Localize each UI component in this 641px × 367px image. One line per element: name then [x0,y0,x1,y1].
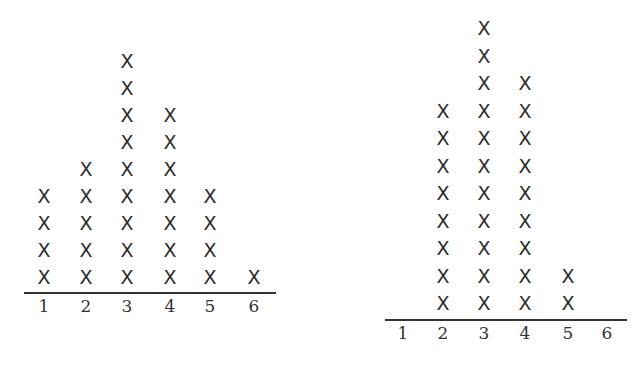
x-marker: X [476,129,492,147]
x-marker: X [36,214,52,232]
x-marker: X [476,294,492,312]
x-marker: X [119,241,135,259]
x-marker: X [246,268,262,286]
x-marker: X [119,160,135,178]
x-marker: X [119,133,135,151]
x-marker: X [476,184,492,202]
x-axis-line [385,319,627,321]
x-marker: X [435,184,451,202]
x-tick-label: 5 [200,297,220,315]
x-marker: X [476,74,492,92]
x-tick-label: 2 [76,297,96,315]
x-marker: X [476,19,492,37]
x-marker: X [78,268,94,286]
x-axis-line [24,292,276,294]
x-marker: X [162,133,178,151]
x-marker: X [435,212,451,230]
x-marker: X [476,102,492,120]
x-tick-label: 4 [515,324,535,342]
x-marker: X [162,268,178,286]
x-marker: X [78,214,94,232]
x-marker: X [202,187,218,205]
x-marker: X [202,268,218,286]
x-marker: X [476,239,492,257]
x-tick-label: 6 [597,324,617,342]
x-marker: X [119,187,135,205]
x-marker: X [517,294,533,312]
x-marker: X [435,102,451,120]
x-tick-label: 5 [558,324,578,342]
x-marker: X [36,241,52,259]
x-marker: X [162,106,178,124]
x-tick-label: 6 [244,297,264,315]
x-tick-label: 2 [433,324,453,342]
x-marker: X [517,129,533,147]
x-marker: X [517,74,533,92]
x-marker: X [476,47,492,65]
x-marker: X [119,79,135,97]
x-marker: X [162,187,178,205]
x-tick-label: 3 [117,297,137,315]
x-marker: X [435,157,451,175]
x-tick-label: 1 [34,297,54,315]
x-marker: X [119,52,135,70]
x-marker: X [476,157,492,175]
x-marker: X [119,268,135,286]
x-marker: X [202,214,218,232]
x-tick-label: 1 [393,324,413,342]
x-marker: X [517,212,533,230]
x-marker: X [476,267,492,285]
x-marker: X [162,214,178,232]
x-marker: X [517,102,533,120]
x-marker: X [517,157,533,175]
x-marker: X [476,212,492,230]
x-marker: X [119,214,135,232]
dot-plots-figure: 1XXXX2XXXXX3XXXXXXXXX4XXXXXXX5XXXX6X 12X… [0,0,641,367]
x-marker: X [517,239,533,257]
x-tick-label: 3 [474,324,494,342]
x-marker: X [119,106,135,124]
x-marker: X [560,267,576,285]
x-marker: X [202,241,218,259]
x-marker: X [78,241,94,259]
x-marker: X [435,267,451,285]
x-marker: X [36,268,52,286]
x-marker: X [36,187,52,205]
x-marker: X [162,241,178,259]
x-marker: X [560,294,576,312]
x-marker: X [78,160,94,178]
x-marker: X [78,187,94,205]
x-marker: X [162,160,178,178]
x-marker: X [435,239,451,257]
x-tick-label: 4 [160,297,180,315]
x-marker: X [435,129,451,147]
x-marker: X [517,267,533,285]
x-marker: X [517,184,533,202]
x-marker: X [435,294,451,312]
